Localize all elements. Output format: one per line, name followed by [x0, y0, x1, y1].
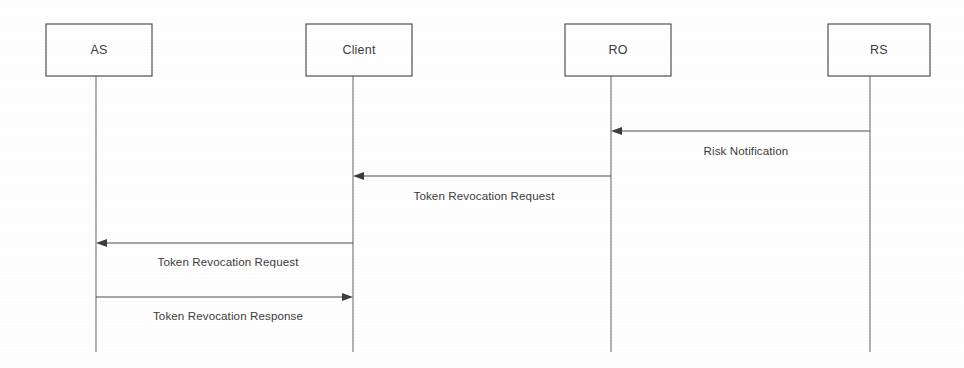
participant-boxes-group: AS Client RO RS [46, 24, 930, 76]
message-token-revocation-request-client-as[interactable]: Token Revocation Request [96, 239, 353, 268]
arrowhead-left-icon [96, 239, 107, 247]
participant-label-as: AS [90, 43, 107, 57]
arrowhead-right-icon [342, 293, 353, 301]
message-label-token-revocation-response-as-client: Token Revocation Response [153, 309, 303, 322]
participant-as[interactable]: AS [46, 24, 152, 76]
message-label-risk-notification: Risk Notification [704, 144, 789, 157]
message-label-token-revocation-request-ro-client: Token Revocation Request [414, 189, 556, 202]
message-token-revocation-response-as-client[interactable]: Token Revocation Response [96, 293, 353, 322]
message-label-token-revocation-request-client-as: Token Revocation Request [158, 255, 300, 268]
sequence-diagram-svg: AS Client RO RS Risk Notification [0, 0, 964, 368]
arrowhead-left-icon [353, 172, 364, 180]
participant-rs[interactable]: RS [828, 24, 930, 76]
participant-ro[interactable]: RO [565, 24, 671, 76]
sequence-diagram-canvas: AS Client RO RS Risk Notification [0, 0, 964, 368]
arrowhead-left-icon [611, 127, 622, 135]
message-risk-notification[interactable]: Risk Notification [611, 127, 870, 157]
participant-label-rs: RS [870, 43, 888, 57]
message-token-revocation-request-ro-client[interactable]: Token Revocation Request [353, 172, 611, 202]
participant-label-ro: RO [608, 43, 627, 57]
participant-label-client: Client [342, 43, 375, 57]
participant-client[interactable]: Client [306, 24, 412, 76]
